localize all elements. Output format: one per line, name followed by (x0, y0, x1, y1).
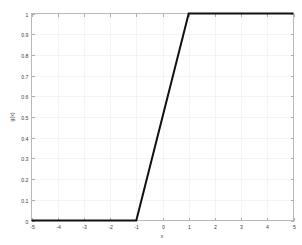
y-tick-label: 0 (26, 219, 29, 225)
x-tick-label: 0 (162, 224, 165, 230)
y-axis-title: g(x) (9, 112, 15, 121)
x-tick-label: 1 (188, 224, 191, 230)
chart-plot: -5-4-3-2-1012345 00.10.20.30.40.50.60.70… (0, 0, 302, 245)
x-tick-label: -1 (134, 224, 139, 230)
x-tick-label: 5 (293, 224, 296, 230)
x-tick-label: 3 (240, 224, 243, 230)
figure-background (0, 0, 302, 245)
x-tick-label: -5 (30, 224, 35, 230)
x-tick-label: -4 (56, 224, 61, 230)
x-tick-label: 2 (214, 224, 217, 230)
x-tick-label: -3 (82, 224, 87, 230)
y-tick-label: 0.9 (21, 32, 28, 38)
figure-container: -5-4-3-2-1012345 00.10.20.30.40.50.60.70… (0, 0, 302, 245)
x-tick-label: 4 (266, 224, 269, 230)
y-tick-label: 0.8 (21, 53, 28, 59)
y-tick-label: 0.7 (21, 74, 28, 80)
y-tick-label: 0.5 (21, 115, 28, 121)
y-tick-label: 0.1 (21, 198, 28, 204)
y-tick-label: 0.6 (21, 94, 28, 100)
x-tick-label: -2 (108, 224, 113, 230)
y-tick-label: 1 (26, 12, 29, 18)
y-tick-label: 0.3 (21, 156, 28, 162)
x-axis-title: x (161, 233, 164, 239)
y-tick-label: 0.4 (21, 136, 28, 142)
y-tick-label: 0.2 (21, 177, 28, 183)
